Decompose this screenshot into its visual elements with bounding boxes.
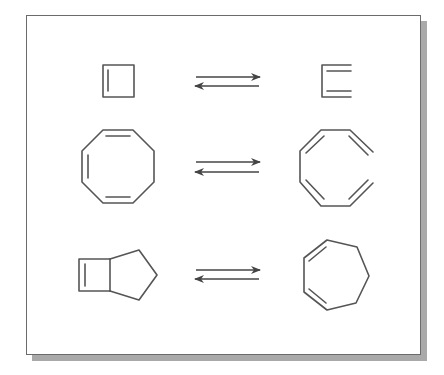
equilibrium-arrow-2 bbox=[195, 162, 260, 172]
reaction-diagram bbox=[0, 0, 444, 375]
equilibrium-arrow-1 bbox=[195, 77, 260, 86]
product-octatetraene bbox=[300, 130, 373, 206]
equilibrium-arrow-3 bbox=[195, 270, 260, 279]
reactant-cyclobutene bbox=[103, 65, 134, 97]
reactant-bicycloheptene bbox=[79, 250, 157, 300]
product-cycloheptadiene bbox=[304, 240, 369, 310]
reactant-cyclooctatriene bbox=[82, 130, 154, 203]
product-butadiene bbox=[322, 65, 351, 97]
